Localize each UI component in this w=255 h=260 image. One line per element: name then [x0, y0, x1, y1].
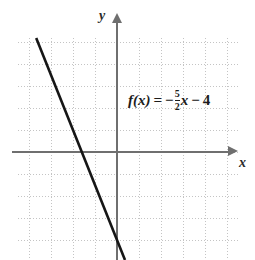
- equation-denominator: 2: [175, 102, 180, 113]
- equation-constant: 4: [203, 93, 211, 108]
- equation-numerator: 5: [175, 89, 180, 100]
- graph-figure: y x f(x) = − 5 2 x − 4: [0, 0, 255, 260]
- function-line: [0, 0, 255, 260]
- equation-fraction: 5 2: [175, 89, 180, 112]
- equation-annotation: f(x) = − 5 2 x − 4: [128, 89, 210, 112]
- equation-variable: x: [181, 93, 189, 108]
- equation-function-name: f(x): [128, 93, 151, 108]
- equation-leading-sign: −: [165, 93, 174, 108]
- equation-equals-sign: =: [154, 93, 163, 108]
- equation-operator: −: [191, 93, 200, 108]
